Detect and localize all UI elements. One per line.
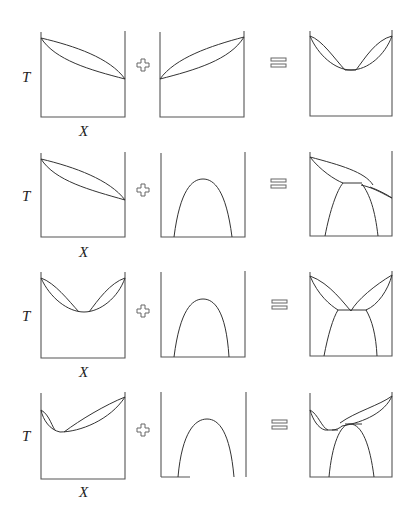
row4-left-panel — [41, 392, 125, 479]
row-2: T X — [22, 151, 392, 260]
row3-middle-panel — [161, 271, 245, 357]
row-4: T X — [22, 392, 392, 500]
equals-icon — [272, 420, 287, 429]
row4-result-panel — [310, 392, 392, 477]
equals-icon — [271, 179, 286, 188]
y-axis-label: T — [22, 188, 32, 204]
y-axis-label: T — [22, 428, 32, 444]
row1-left-panel — [41, 31, 125, 117]
x-axis-label: X — [78, 123, 89, 139]
x-axis-label: X — [78, 244, 89, 260]
row2-left-panel — [41, 152, 125, 237]
row1-result-panel — [310, 30, 392, 116]
y-axis-label: T — [22, 69, 32, 85]
row-3: T X — [22, 271, 392, 380]
equals-icon — [271, 58, 286, 67]
row2-result-panel — [310, 151, 392, 236]
row1-middle-panel — [160, 31, 244, 117]
y-axis-label: T — [22, 308, 32, 324]
equals-icon — [272, 300, 287, 309]
plus-icon — [137, 424, 149, 436]
plus-icon — [137, 305, 149, 317]
row2-middle-panel — [161, 152, 245, 237]
phase-diagram-figure: T X T X — [0, 0, 416, 518]
plus-icon — [137, 184, 149, 196]
x-axis-label: X — [78, 364, 89, 380]
row3-result-panel — [310, 271, 392, 356]
row3-left-panel — [41, 272, 125, 358]
plus-icon — [137, 59, 149, 71]
row-1: T X — [22, 30, 392, 139]
row4-middle-panel — [161, 392, 246, 477]
x-axis-label: X — [78, 484, 89, 500]
